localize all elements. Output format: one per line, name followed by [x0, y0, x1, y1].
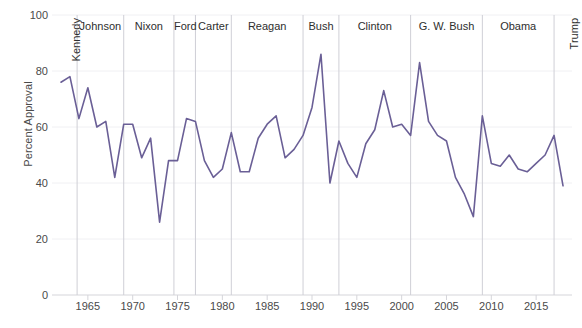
- x-tick-label: 1975: [165, 300, 189, 312]
- x-tick-label: 1965: [76, 300, 100, 312]
- x-tick-label: 2000: [389, 300, 413, 312]
- president-label-obama: Obama: [482, 20, 554, 32]
- approval-line-chart: [0, 0, 582, 328]
- president-label-clinton: Clinton: [339, 20, 411, 32]
- president-label-johnson: Johnson: [77, 20, 124, 32]
- president-label-carter: Carter: [195, 20, 231, 32]
- president-label-nixon: Nixon: [124, 20, 174, 32]
- president-label-bush: Bush: [303, 20, 339, 32]
- president-label-g-w-bush: G. W. Bush: [411, 20, 483, 32]
- chart-container: 020406080100 Percent Approval KennedyJoh…: [0, 0, 582, 328]
- series-line-presidential-approval: [61, 54, 563, 222]
- x-tick-label: 1980: [210, 300, 234, 312]
- x-tick-label: 1970: [120, 300, 144, 312]
- x-tick-label: 1990: [300, 300, 324, 312]
- x-tick-label: 1985: [255, 300, 279, 312]
- president-label-ford: Ford: [174, 20, 196, 32]
- x-tick-label: 2015: [524, 300, 548, 312]
- president-label-reagan: Reagan: [231, 20, 303, 32]
- x-tick-label: 2005: [434, 300, 458, 312]
- x-tick-label: 1995: [345, 300, 369, 312]
- president-label-trump: Trump: [568, 18, 580, 49]
- x-tick-label: 2010: [479, 300, 503, 312]
